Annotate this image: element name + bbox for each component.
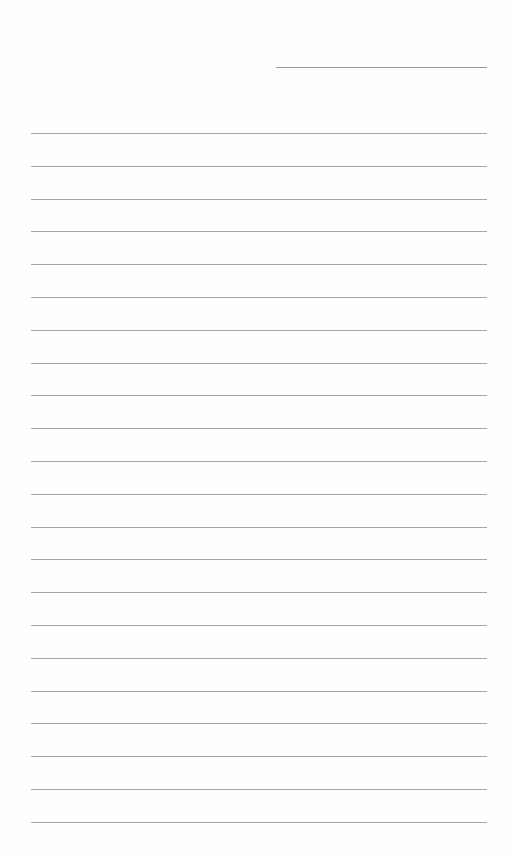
ruled-line <box>31 133 487 134</box>
ruled-line <box>31 461 487 462</box>
ruled-line <box>31 527 487 528</box>
lined-paper-page <box>0 0 513 854</box>
header-blank-line <box>276 67 487 68</box>
ruled-line <box>31 658 487 659</box>
ruled-line <box>31 494 487 495</box>
ruled-line <box>31 297 487 298</box>
ruled-line <box>31 592 487 593</box>
ruled-line <box>31 231 487 232</box>
ruled-line <box>31 166 487 167</box>
ruled-line <box>31 691 487 692</box>
ruled-line <box>31 789 487 790</box>
ruled-line <box>31 822 487 823</box>
ruled-line <box>31 723 487 724</box>
ruled-line <box>31 395 487 396</box>
ruled-line <box>31 756 487 757</box>
ruled-line <box>31 559 487 560</box>
ruled-line <box>31 264 487 265</box>
ruled-line <box>31 428 487 429</box>
ruled-line <box>31 199 487 200</box>
ruled-line <box>31 625 487 626</box>
ruled-line <box>31 330 487 331</box>
ruled-line <box>31 363 487 364</box>
